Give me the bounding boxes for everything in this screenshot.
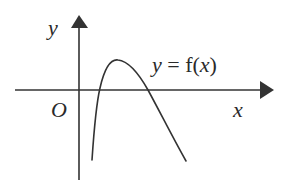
function-graph: y O x y = f(x) bbox=[0, 0, 283, 185]
curve-label-close: ) bbox=[210, 52, 217, 77]
curve-label-eq: = bbox=[162, 52, 185, 77]
curve-label-lhs: y bbox=[150, 52, 162, 77]
curve-label: y = f(x) bbox=[150, 52, 217, 77]
y-axis-arrow-icon bbox=[71, 15, 88, 28]
curve-label-arg: x bbox=[199, 52, 210, 77]
x-axis-label: x bbox=[232, 97, 243, 122]
y-axis-label: y bbox=[46, 15, 58, 40]
origin-label: O bbox=[51, 97, 67, 122]
curve-label-fn: f( bbox=[185, 52, 200, 77]
x-axis-arrow-icon bbox=[260, 81, 274, 99]
